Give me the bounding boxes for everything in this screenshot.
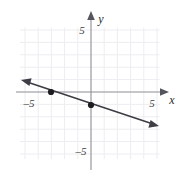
grid-lines [20,28,160,159]
x-axis-arrow-icon [160,88,169,96]
x-tick-label-neg5: –5 [23,97,36,109]
x-axis-label: x [168,93,175,107]
y-axis-label: y [97,12,104,26]
data-point [88,102,94,108]
y-tick-label-neg5: –5 [75,145,88,157]
data-point [48,89,54,95]
x-tick-label-5: 5 [149,97,155,109]
graph-canvas: –5 5 5 –5 x y [0,0,185,179]
y-tick-label-5: 5 [79,24,85,36]
coordinate-plane-figure: –5 5 5 –5 x y [0,0,185,179]
y-axis-arrow-icon [87,11,95,20]
axis-tick-labels: –5 5 5 –5 x y [23,12,176,157]
axes [16,11,169,170]
